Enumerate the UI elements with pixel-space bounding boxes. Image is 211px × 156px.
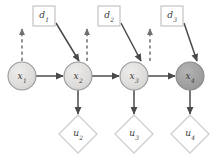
influence-diagram: d1 d2 d3 x1 x2 x3 x4 u2 u3 u4 xyxy=(0,0,211,156)
state-node-x3[interactable] xyxy=(120,62,148,90)
utility-node-u3[interactable] xyxy=(115,115,153,153)
edge-group-decision-links xyxy=(56,23,197,61)
edge-d3-to-x4 xyxy=(184,23,197,61)
graph-canvas xyxy=(0,0,211,156)
utility-node-u2[interactable] xyxy=(59,115,97,153)
edge-d2-to-x3 xyxy=(121,23,141,61)
state-node-x2[interactable] xyxy=(64,62,92,90)
state-node-x4[interactable] xyxy=(176,62,204,90)
decision-node-group xyxy=(33,6,183,26)
utility-node-group xyxy=(59,115,209,153)
decision-node-d2[interactable] xyxy=(98,6,120,26)
decision-node-d1[interactable] xyxy=(33,6,55,26)
edge-group-utility-links xyxy=(78,90,190,114)
decision-node-d3[interactable] xyxy=(161,6,183,26)
utility-node-u4[interactable] xyxy=(171,115,209,153)
edge-group-information-links xyxy=(22,29,150,61)
edge-d1-to-x2 xyxy=(56,23,79,61)
state-node-x1[interactable] xyxy=(8,62,36,90)
